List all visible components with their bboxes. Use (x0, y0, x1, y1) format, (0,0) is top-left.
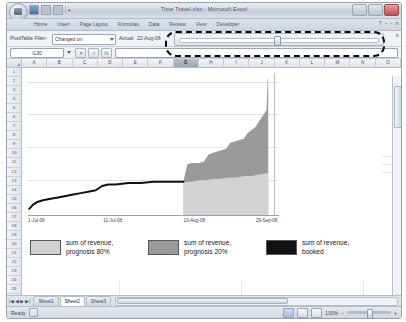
column-header-k[interactable]: K (275, 59, 300, 67)
zoom-slider[interactable] (347, 311, 391, 314)
last-sheet-icon[interactable]: ▶| (25, 299, 30, 304)
next-sheet-icon[interactable]: ▶ (20, 299, 24, 304)
select-all-corner[interactable] (7, 59, 22, 67)
row-header-17[interactable]: 17 (7, 213, 21, 222)
tab-formulas[interactable]: Formulas (113, 19, 144, 30)
title-bar: ▾ Time Travel.xlsx - Microsoft Excel (7, 3, 401, 19)
help-icon[interactable]: ? (379, 20, 382, 26)
tab-view[interactable]: View (191, 19, 212, 30)
time-travel-slider[interactable] (174, 33, 384, 46)
name-box-chevron-down-icon[interactable] (67, 51, 71, 54)
accept-formula-icon[interactable]: ✓ (88, 48, 99, 58)
row-header-3[interactable]: 3 (7, 86, 21, 95)
tab-developer[interactable]: Developer (212, 19, 245, 30)
ribbon-tab-bar: Home Insert Page Layout Formulas Data Re… (7, 19, 401, 31)
normal-view-icon[interactable] (283, 308, 294, 318)
column-header-j[interactable]: J (249, 59, 274, 67)
grid-body: 1234567891011121314151617181920212223242… (7, 68, 401, 296)
revenue-chart[interactable]: 1-Jul-0811-Jul-0810-Aug-0829-Sep-08 sum … (24, 69, 382, 281)
zoom-out-icon[interactable]: − (341, 310, 344, 316)
column-header-m[interactable]: M (325, 59, 350, 67)
tab-review[interactable]: Review (164, 19, 190, 30)
row-header-6[interactable]: 6 (7, 113, 21, 122)
row-header-16[interactable]: 16 (7, 204, 21, 213)
column-header-c[interactable]: C (73, 59, 98, 67)
tab-data[interactable]: Data (144, 19, 165, 30)
horizontal-scroll-thumb[interactable] (117, 298, 288, 304)
legend-swatch-1 (148, 240, 179, 255)
page-layout-view-icon[interactable] (297, 308, 308, 318)
column-header-n[interactable]: N (350, 59, 375, 67)
column-header-h[interactable]: H (199, 59, 224, 67)
row-header-10[interactable]: 10 (7, 149, 21, 158)
minimize-ribbon-icon[interactable]: – (384, 20, 387, 26)
restore-button[interactable] (368, 4, 383, 16)
column-header-b[interactable]: B (47, 59, 72, 67)
row-header-19[interactable]: 19 (7, 231, 21, 240)
row-header-7[interactable]: 7 (7, 122, 21, 131)
legend-label-0: sum of revenue,prognosis 80% (66, 239, 113, 256)
horizontal-scrollbar[interactable] (115, 297, 398, 306)
row-header-2[interactable]: 2 (7, 77, 21, 86)
column-header-l[interactable]: L (300, 59, 325, 67)
column-header-g[interactable]: G (174, 59, 199, 67)
first-sheet-icon[interactable]: |◀ (9, 299, 14, 304)
tab-home[interactable]: Home (29, 19, 52, 30)
vertical-scroll-thumb[interactable] (394, 86, 402, 128)
row-header-12[interactable]: 12 (7, 168, 21, 177)
insert-function-icon[interactable]: fx (101, 48, 112, 58)
macro-record-icon[interactable] (29, 308, 38, 317)
formula-input[interactable] (115, 48, 398, 58)
column-header-i[interactable]: I (224, 59, 249, 67)
sheet-tab-sheet2[interactable]: Sheet2 (60, 296, 85, 306)
row-header-25[interactable]: 25 (7, 285, 21, 294)
row-header-13[interactable]: 13 (7, 177, 21, 186)
page-break-view-icon[interactable] (311, 308, 322, 318)
column-header-d[interactable]: D (98, 59, 123, 67)
vertical-scrollbar[interactable] (392, 76, 401, 296)
ribbon-window-controls: ? – ▫ ✕ (379, 20, 399, 26)
pivot-bar-close-icon[interactable]: ✕ (395, 32, 399, 38)
status-bar: Ready 100% − + (7, 306, 401, 318)
row-header-22[interactable]: 22 (7, 258, 21, 267)
row-header-1[interactable]: 1 (7, 68, 21, 77)
row-header-18[interactable]: 18 (7, 222, 21, 231)
tab-insert[interactable]: Insert (52, 19, 75, 30)
legend-label-2: sum of revenue,booked (302, 239, 349, 256)
column-header-a[interactable]: A (22, 59, 47, 67)
restore-ribbon-icon[interactable]: ▫ (390, 20, 392, 26)
legend-label-line1-2: sum of revenue, (302, 239, 349, 248)
zoom-slider-thumb[interactable] (367, 309, 373, 319)
minimize-button[interactable] (352, 4, 367, 16)
row-header-23[interactable]: 23 (7, 267, 21, 276)
close-document-icon[interactable]: ✕ (395, 20, 399, 26)
row-header-8[interactable]: 8 (7, 131, 21, 140)
tab-page-layout[interactable]: Page Layout (75, 19, 113, 30)
row-header-11[interactable]: 11 (7, 158, 21, 167)
column-header-o[interactable]: O (376, 59, 401, 67)
close-button[interactable] (384, 4, 399, 16)
pivot-filter-bar: PivotTable Filter: Changed on Actual: 22… (7, 31, 401, 47)
sheet-tab-sheet1[interactable]: Sheet1 (33, 296, 58, 306)
excel-window: ▾ Time Travel.xlsx - Microsoft Excel Hom… (6, 2, 402, 319)
column-header-e[interactable]: E (123, 59, 148, 67)
pivot-filter-dropdown[interactable]: Changed on (52, 34, 116, 45)
row-header-24[interactable]: 24 (7, 276, 21, 285)
sheet-tab-sheet3[interactable]: Sheet3 (86, 296, 111, 306)
row-header-20[interactable]: 20 (7, 240, 21, 249)
formula-bar: G30 ✕ ✓ fx (7, 47, 401, 59)
prev-sheet-icon[interactable]: ◀ (15, 299, 19, 304)
column-header-f[interactable]: F (148, 59, 173, 67)
row-header-4[interactable]: 4 (7, 95, 21, 104)
row-header-14[interactable]: 14 (7, 186, 21, 195)
row-header-5[interactable]: 5 (7, 104, 21, 113)
row-header-9[interactable]: 9 (7, 140, 21, 149)
zoom-in-icon[interactable]: + (394, 310, 397, 316)
legend-swatch-0 (30, 240, 61, 255)
row-header-21[interactable]: 21 (7, 249, 21, 258)
cancel-formula-icon[interactable]: ✕ (75, 48, 86, 58)
slider-thumb[interactable] (274, 36, 281, 46)
row-header-15[interactable]: 15 (7, 195, 21, 204)
cells-region[interactable]: 1-Jul-0811-Jul-0810-Aug-0829-Sep-08 sum … (22, 68, 401, 296)
name-box[interactable]: G30 (10, 48, 64, 58)
